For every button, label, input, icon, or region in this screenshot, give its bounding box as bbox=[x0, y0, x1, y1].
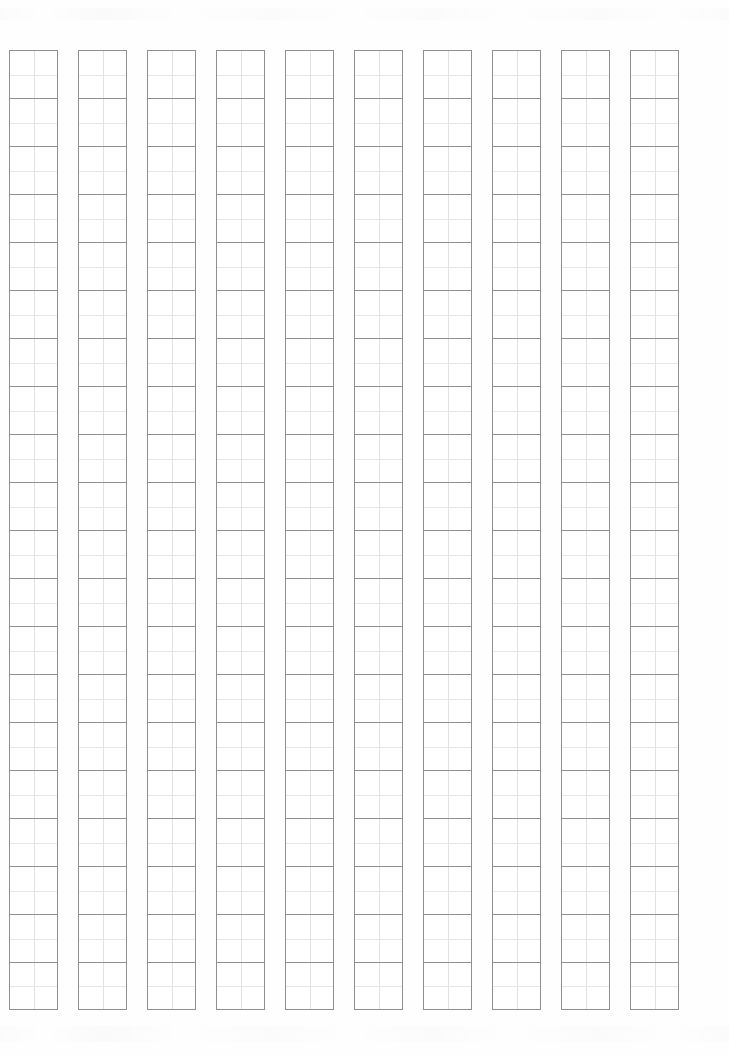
writing-cell[interactable] bbox=[9, 338, 58, 386]
writing-cell[interactable] bbox=[492, 770, 541, 818]
writing-cell[interactable] bbox=[285, 194, 334, 242]
writing-cell[interactable] bbox=[147, 434, 196, 482]
writing-cell[interactable] bbox=[561, 242, 610, 290]
writing-cell[interactable] bbox=[492, 242, 541, 290]
writing-cell[interactable] bbox=[561, 914, 610, 962]
writing-cell[interactable] bbox=[354, 770, 403, 818]
writing-cell[interactable] bbox=[423, 914, 472, 962]
writing-cell[interactable] bbox=[354, 482, 403, 530]
writing-cell[interactable] bbox=[9, 722, 58, 770]
writing-cell[interactable] bbox=[147, 914, 196, 962]
writing-cell[interactable] bbox=[561, 578, 610, 626]
writing-cell[interactable] bbox=[561, 290, 610, 338]
writing-cell[interactable] bbox=[630, 578, 679, 626]
writing-cell[interactable] bbox=[630, 530, 679, 578]
writing-cell[interactable] bbox=[423, 674, 472, 722]
writing-cell[interactable] bbox=[423, 242, 472, 290]
writing-cell[interactable] bbox=[354, 578, 403, 626]
writing-cell[interactable] bbox=[9, 962, 58, 1010]
writing-cell[interactable] bbox=[630, 626, 679, 674]
writing-column[interactable] bbox=[9, 50, 58, 1010]
writing-column[interactable] bbox=[630, 50, 679, 1010]
writing-cell[interactable] bbox=[78, 434, 127, 482]
writing-cell[interactable] bbox=[354, 434, 403, 482]
writing-cell[interactable] bbox=[9, 290, 58, 338]
writing-cell[interactable] bbox=[492, 50, 541, 98]
writing-column[interactable] bbox=[561, 50, 610, 1010]
writing-cell[interactable] bbox=[147, 674, 196, 722]
writing-cell[interactable] bbox=[78, 818, 127, 866]
writing-cell[interactable] bbox=[9, 914, 58, 962]
writing-cell[interactable] bbox=[147, 530, 196, 578]
writing-cell[interactable] bbox=[216, 482, 265, 530]
writing-cell[interactable] bbox=[9, 530, 58, 578]
writing-cell[interactable] bbox=[78, 194, 127, 242]
writing-cell[interactable] bbox=[492, 722, 541, 770]
writing-cell[interactable] bbox=[9, 626, 58, 674]
writing-cell[interactable] bbox=[354, 914, 403, 962]
writing-cell[interactable] bbox=[216, 674, 265, 722]
writing-cell[interactable] bbox=[285, 530, 334, 578]
writing-cell[interactable] bbox=[561, 866, 610, 914]
writing-cell[interactable] bbox=[9, 50, 58, 98]
writing-cell[interactable] bbox=[561, 98, 610, 146]
writing-cell[interactable] bbox=[9, 434, 58, 482]
writing-cell[interactable] bbox=[354, 962, 403, 1010]
writing-cell[interactable] bbox=[630, 674, 679, 722]
writing-cell[interactable] bbox=[147, 482, 196, 530]
writing-cell[interactable] bbox=[492, 434, 541, 482]
writing-cell[interactable] bbox=[423, 530, 472, 578]
writing-cell[interactable] bbox=[630, 290, 679, 338]
writing-cell[interactable] bbox=[354, 338, 403, 386]
writing-cell[interactable] bbox=[78, 914, 127, 962]
writing-cell[interactable] bbox=[147, 866, 196, 914]
writing-cell[interactable] bbox=[147, 770, 196, 818]
writing-cell[interactable] bbox=[9, 98, 58, 146]
writing-cell[interactable] bbox=[630, 482, 679, 530]
writing-column[interactable] bbox=[147, 50, 196, 1010]
writing-cell[interactable] bbox=[78, 626, 127, 674]
writing-cell[interactable] bbox=[354, 386, 403, 434]
writing-cell[interactable] bbox=[561, 818, 610, 866]
writing-cell[interactable] bbox=[285, 338, 334, 386]
writing-cell[interactable] bbox=[492, 98, 541, 146]
writing-cell[interactable] bbox=[147, 50, 196, 98]
writing-cell[interactable] bbox=[492, 146, 541, 194]
writing-cell[interactable] bbox=[492, 578, 541, 626]
writing-cell[interactable] bbox=[78, 50, 127, 98]
writing-cell[interactable] bbox=[423, 338, 472, 386]
writing-cell[interactable] bbox=[354, 722, 403, 770]
writing-cell[interactable] bbox=[561, 962, 610, 1010]
writing-cell[interactable] bbox=[78, 578, 127, 626]
writing-cell[interactable] bbox=[423, 578, 472, 626]
writing-cell[interactable] bbox=[216, 146, 265, 194]
writing-cell[interactable] bbox=[630, 722, 679, 770]
writing-cell[interactable] bbox=[561, 338, 610, 386]
writing-cell[interactable] bbox=[78, 242, 127, 290]
writing-cell[interactable] bbox=[285, 482, 334, 530]
writing-cell[interactable] bbox=[216, 962, 265, 1010]
writing-cell[interactable] bbox=[561, 50, 610, 98]
writing-cell[interactable] bbox=[630, 242, 679, 290]
writing-cell[interactable] bbox=[561, 722, 610, 770]
writing-cell[interactable] bbox=[630, 98, 679, 146]
writing-cell[interactable] bbox=[561, 146, 610, 194]
writing-cell[interactable] bbox=[78, 338, 127, 386]
writing-cell[interactable] bbox=[630, 818, 679, 866]
writing-cell[interactable] bbox=[354, 146, 403, 194]
writing-cell[interactable] bbox=[216, 98, 265, 146]
writing-cell[interactable] bbox=[423, 194, 472, 242]
writing-column[interactable] bbox=[78, 50, 127, 1010]
writing-cell[interactable] bbox=[285, 578, 334, 626]
writing-column[interactable] bbox=[423, 50, 472, 1010]
writing-cell[interactable] bbox=[9, 146, 58, 194]
writing-cell[interactable] bbox=[354, 290, 403, 338]
writing-cell[interactable] bbox=[354, 50, 403, 98]
writing-cell[interactable] bbox=[147, 194, 196, 242]
writing-column[interactable] bbox=[285, 50, 334, 1010]
writing-cell[interactable] bbox=[216, 530, 265, 578]
writing-cell[interactable] bbox=[492, 818, 541, 866]
writing-cell[interactable] bbox=[147, 818, 196, 866]
writing-cell[interactable] bbox=[492, 386, 541, 434]
writing-cell[interactable] bbox=[9, 770, 58, 818]
